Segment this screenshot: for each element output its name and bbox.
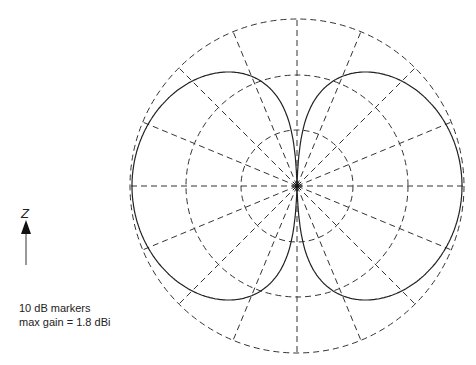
grid-spoke [297,68,415,186]
grid-spoke [297,32,361,186]
grid-spoke [179,68,297,186]
grid-spoke [297,186,415,304]
grid-spoke [297,122,451,186]
grid-spoke [143,122,297,186]
max-gain-note: max gain = 1.8 dBi [19,316,110,329]
marker-spacing-note: 10 dB markers [19,302,91,315]
z-axis-arrow [21,220,31,265]
center-marker-icon [292,181,302,191]
grid-spoke [297,186,361,340]
grid-spoke [179,186,297,304]
grid-spoke [233,32,297,186]
z-axis-label: Z [21,206,29,221]
grid-spoke [297,186,451,250]
grid-spoke [143,186,297,250]
grid-spoke [233,186,297,340]
